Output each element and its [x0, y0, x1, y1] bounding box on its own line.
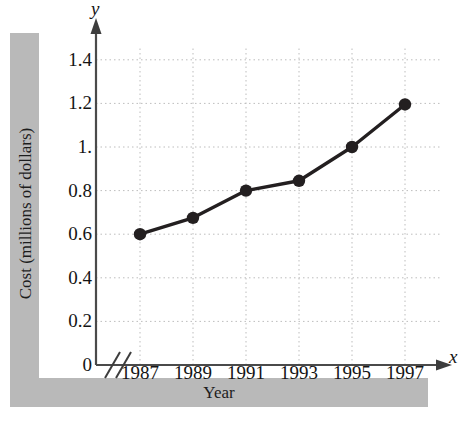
chart-canvas	[40, 0, 467, 380]
y-tick-label: 0.4	[48, 267, 92, 289]
x-tick-label: 1991	[216, 362, 276, 384]
data-point	[240, 184, 252, 196]
y-tick-label: 1.2	[48, 92, 92, 114]
y-axis-arrowhead	[91, 18, 102, 34]
x-axis-tick-labels: 198719891991199319951997	[40, 362, 467, 388]
data-point	[293, 175, 305, 187]
x-tick-label: 1995	[322, 362, 382, 384]
x-tick-label: 1987	[110, 362, 170, 384]
chart-figure: Cost (millions of dollars) Year 00.20.40…	[0, 0, 467, 440]
vertical-gridlines	[140, 48, 405, 365]
data-point	[187, 212, 199, 224]
data-point	[346, 141, 358, 153]
data-series-line	[140, 104, 405, 234]
data-point	[134, 228, 146, 240]
data-point-markers	[134, 98, 411, 240]
y-tick-label: 1.	[48, 136, 92, 158]
x-tick-label: 1993	[269, 362, 329, 384]
y-tick-label: 0.2	[48, 310, 92, 332]
y-axis-tick-labels: 00.20.40.60.81.1.21.4	[40, 0, 92, 380]
y-tick-label: 0.6	[48, 223, 92, 245]
y-tick-label: 1.4	[48, 49, 92, 71]
y-tick-label: 0.8	[48, 180, 92, 202]
y-axis-title-band: Cost (millions of dollars)	[10, 33, 39, 407]
data-point	[399, 98, 411, 110]
plot-area: 00.20.40.60.81.1.21.4 198719891991199319…	[40, 0, 467, 380]
y-axis-title: Cost (millions of dollars)	[11, 39, 40, 389]
horizontal-gridlines	[96, 60, 440, 322]
y-axis-letter: y	[91, 0, 99, 20]
x-axis-letter: x	[449, 346, 457, 368]
x-tick-label: 1989	[163, 362, 223, 384]
x-tick-label: 1997	[375, 362, 435, 384]
